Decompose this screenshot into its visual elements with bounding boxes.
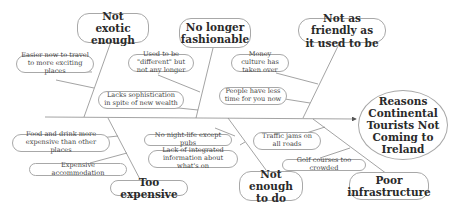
subcause-money-culture: Money culture has taken over bbox=[231, 54, 289, 72]
subcause-less-time: People have less time for you now bbox=[219, 87, 287, 105]
cause-no-longer-fashionable: No longer fashionable bbox=[179, 18, 251, 48]
subcause-no-night-life: No night-life except pubs bbox=[144, 134, 232, 146]
cause-not-exotic-enough: Not exotic enough bbox=[77, 13, 149, 43]
effect-head: Reasons Continental Tourists Not Coming … bbox=[358, 90, 448, 160]
cause-poor-infrastructure: Poor infrastructure bbox=[349, 172, 429, 200]
bone-not-friendly bbox=[303, 42, 340, 118]
cause-too-expensive: Too expensive bbox=[110, 180, 188, 196]
cause-not-as-friendly: Not as friendly as it used to be bbox=[298, 18, 386, 43]
subcause-used-to-be-different: Used to be "different" but not any longe… bbox=[128, 54, 194, 72]
subcause-traffic-jams: Traffic jams on all roads bbox=[253, 132, 321, 150]
subcause-expensive-accommodation: Expensive accommodation bbox=[29, 163, 127, 176]
spine-line bbox=[45, 117, 356, 119]
cause-not-enough-to-do: Not enough to do bbox=[239, 171, 303, 201]
subcause-food-drink: Food and drink more expensive than other… bbox=[12, 134, 110, 152]
bone-no-longer-fashionable bbox=[196, 44, 214, 118]
subcause-lack-integrated-info: Lack of integrated information about wha… bbox=[148, 150, 238, 168]
subcause-easier-to-travel: Easier now to travel to more exciting pl… bbox=[16, 55, 94, 73]
subcause-lacks-sophistication: Lacks sophistication in spite of new wea… bbox=[98, 91, 184, 109]
subcause-golf-courses: Golf courses too crowded bbox=[282, 159, 366, 171]
